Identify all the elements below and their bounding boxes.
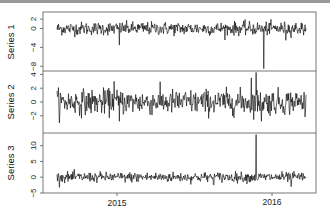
y-tick-label: −4 — [29, 42, 38, 52]
y-axis-title: Series 3 — [5, 146, 16, 181]
y-tick-label: −8 — [29, 61, 38, 71]
y-tick-label: 0 — [29, 99, 38, 104]
y-tick-label: 0 — [29, 174, 38, 179]
series-line — [57, 135, 306, 188]
panel-series-2: Series 2 420−2 — [5, 72, 306, 123]
series-line — [57, 19, 306, 68]
plot-frame — [43, 12, 316, 193]
x-axis: 2015 2016 — [108, 193, 282, 208]
y-tick-label: 10 — [29, 141, 38, 150]
series-line — [57, 72, 306, 123]
panel-series-3: Series 3 1050−5 — [5, 135, 306, 198]
y-axis-title: Series 2 — [5, 85, 16, 120]
x-tick-label: 2016 — [263, 197, 282, 207]
x-tick-label: 2015 — [108, 198, 127, 208]
y-tick-label: 4 — [29, 72, 38, 77]
y-tick-label: 2 — [29, 16, 38, 21]
panel-series-1: Series 1 20−4−8 — [5, 16, 306, 71]
stacked-time-series-chart: Series 1 20−4−8 Series 2 420−2 Series 3 … — [0, 0, 330, 217]
y-tick-label: −2 — [29, 111, 38, 121]
y-tick-label: 0 — [29, 26, 38, 31]
y-axis-title: Series 1 — [5, 25, 16, 60]
y-tick-label: −5 — [29, 188, 38, 198]
y-tick-label: 2 — [29, 85, 38, 90]
y-tick-label: 5 — [29, 159, 38, 164]
